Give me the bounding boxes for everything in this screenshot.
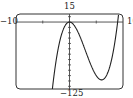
axes xyxy=(16,14,123,89)
function-curve xyxy=(52,15,118,89)
ymin-label: −125 xyxy=(60,89,83,98)
graph-window xyxy=(0,0,133,98)
ymax-label: 15 xyxy=(64,2,75,11)
xmin-label: −10 xyxy=(0,17,18,26)
xmax-label: 10 xyxy=(127,17,133,26)
